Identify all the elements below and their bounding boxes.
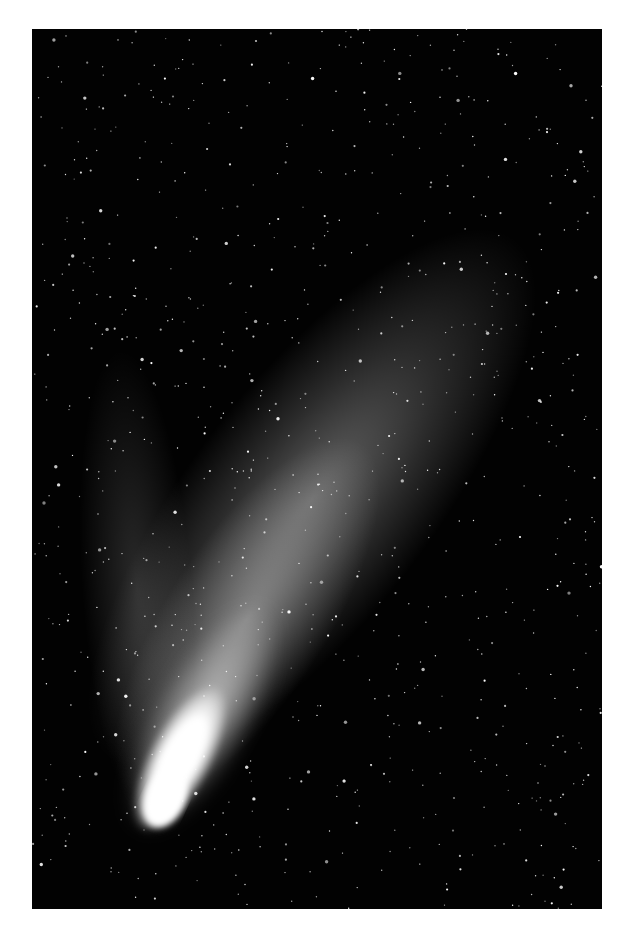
comet-photograph [32,29,602,909]
comet-svg [32,29,602,909]
